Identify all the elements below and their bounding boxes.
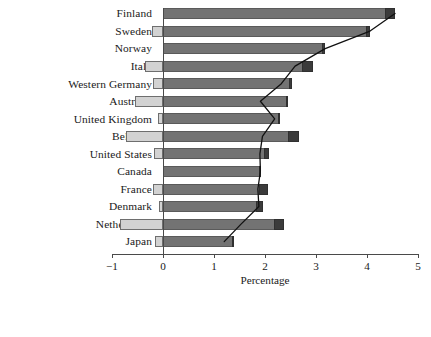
zero-baseline	[163, 8, 164, 254]
x-tick-1	[163, 254, 164, 258]
x-tick-label-5: 4	[352, 261, 382, 272]
plot-area: −1012345Percentage	[0, 0, 431, 270]
x-tick-label-0: −1	[97, 261, 127, 272]
x-tick-5	[367, 254, 368, 258]
x-tick-label-2: 1	[199, 261, 229, 272]
x-tick-label-1: 0	[148, 261, 178, 272]
x-tick-label-6: 5	[403, 261, 431, 272]
x-tick-4	[316, 254, 317, 258]
line-overlay	[0, 0, 431, 270]
x-tick-6	[418, 254, 419, 258]
x-tick-0	[112, 254, 113, 258]
x-tick-label-3: 2	[250, 261, 280, 272]
x-axis-title: Percentage	[195, 275, 335, 286]
productivity-growth-chart: FinlandSwedenNorwayItalyWestern GermanyA…	[0, 0, 431, 337]
x-tick-label-4: 3	[301, 261, 331, 272]
x-tick-2	[214, 254, 215, 258]
growth-rate-line	[224, 14, 395, 242]
x-tick-3	[265, 254, 266, 258]
